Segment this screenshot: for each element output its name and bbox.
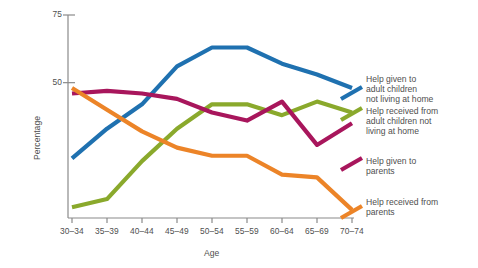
x-tick-label: 65–69 [300,226,334,236]
x-tick-label: 35–39 [90,226,124,236]
legend-item-label: Help received from parents [366,197,438,217]
legend-item[interactable]: Help given to parents [366,156,416,176]
legend-item-label: Help given to adult children not living … [366,74,433,104]
y-axis-title: Percentage [32,116,42,160]
chart-axes [63,15,354,223]
x-tick-label: 55–59 [230,226,264,236]
x-tick-label: 45–49 [160,226,194,236]
y-axis-ticks [63,15,75,83]
legend-item[interactable]: Help received from adult children not li… [366,106,438,136]
y-tick-label: 75 [44,9,62,19]
data-series-group [72,47,352,209]
legend-item-label: Help given to parents [366,156,416,176]
x-axis-title: Age [204,248,219,258]
x-tick-label: 30–34 [55,226,89,236]
series-line-2 [72,91,352,145]
legend-swatch-2 [341,158,362,170]
x-tick-label: 40–44 [125,226,159,236]
y-tick-label: 50 [44,77,62,87]
x-axis-ticks [72,218,352,223]
legend-item-label: Help received from adult children not li… [366,106,438,136]
x-tick-label: 50–54 [195,226,229,236]
legend-item[interactable]: Help given to adult children not living … [366,74,433,104]
legend-swatch-group [341,87,362,218]
x-tick-label: 60–64 [265,226,299,236]
legend-item[interactable]: Help received from parents [366,197,438,217]
chart-container: 30–3435–3940–4445–4950–5455–5960–6465–69… [0,0,478,268]
x-tick-label: 70–74 [335,226,369,236]
